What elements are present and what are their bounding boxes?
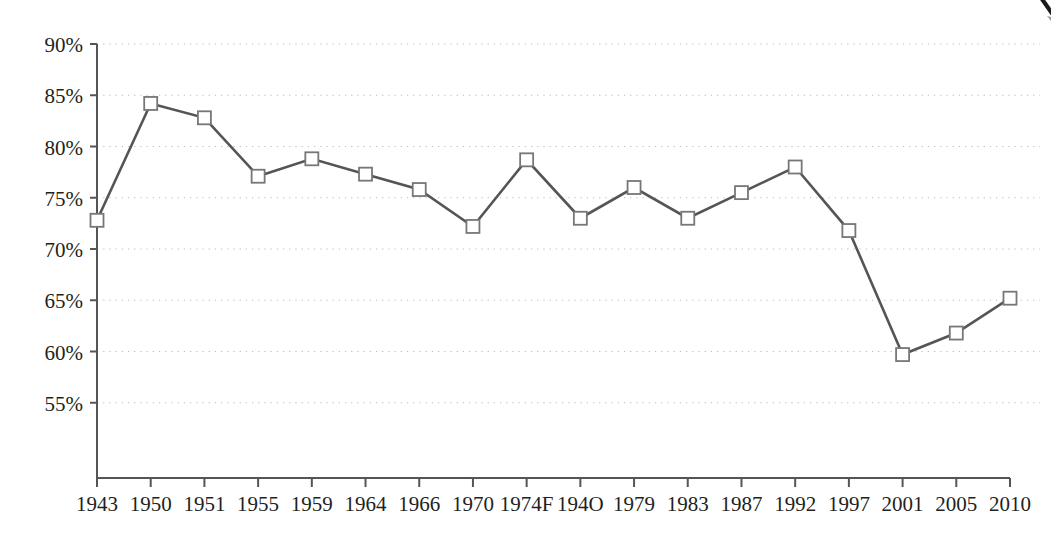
data-point-marker (735, 186, 748, 199)
data-point-marker (789, 161, 802, 174)
line-chart: 90%85%80%75%70%65%60%55% 194319501951195… (0, 0, 1051, 550)
data-point-marker (466, 220, 479, 233)
data-point-marker (305, 152, 318, 165)
x-tick-label: 1955 (237, 492, 279, 516)
series-line (97, 103, 1010, 354)
y-tick-label: 55% (45, 392, 84, 416)
data-point-marker (144, 97, 157, 110)
y-tick-label: 85% (45, 84, 84, 108)
x-tick-label: 2005 (935, 492, 977, 516)
x-tick-label: 194O (557, 492, 604, 516)
x-tick-labels: 194319501951195519591964196619701974F194… (76, 492, 1031, 516)
x-axis (97, 478, 1010, 487)
x-tick-label: 1987 (720, 492, 762, 516)
data-point-marker (413, 183, 426, 196)
data-point-marker (681, 212, 694, 225)
x-tick-label: 2001 (882, 492, 924, 516)
data-markers (91, 97, 1017, 361)
y-tick-label: 75% (45, 187, 84, 211)
x-tick-label: 1974F (500, 492, 554, 516)
x-tick-label: 1997 (828, 492, 870, 516)
x-tick-label: 1983 (667, 492, 709, 516)
x-tick-label: 1966 (398, 492, 440, 516)
data-point-marker (574, 212, 587, 225)
data-point-marker (842, 224, 855, 237)
x-tick-label: 1951 (183, 492, 225, 516)
data-point-marker (950, 327, 963, 340)
chart-container: 90%85%80%75%70%65%60%55% 194319501951195… (0, 0, 1051, 550)
data-point-marker (628, 181, 641, 194)
x-tick-label: 1970 (452, 492, 494, 516)
data-point-marker (520, 153, 533, 166)
y-tick-label: 80% (45, 136, 84, 160)
y-axis (90, 44, 97, 478)
data-point-marker (896, 348, 909, 361)
data-point-marker (91, 214, 104, 227)
y-tick-label: 90% (45, 33, 84, 57)
data-point-marker (198, 111, 211, 124)
data-line (97, 103, 1010, 354)
y-tick-label: 65% (45, 289, 84, 313)
x-tick-label: 1950 (130, 492, 172, 516)
x-tick-label: 1979 (613, 492, 655, 516)
x-tick-label: 1943 (76, 492, 118, 516)
data-point-marker (1004, 292, 1017, 305)
x-tick-label: 1959 (291, 492, 333, 516)
data-point-marker (359, 168, 372, 181)
y-tick-labels: 90%85%80%75%70%65%60%55% (45, 33, 84, 416)
x-tick-label: 1992 (774, 492, 816, 516)
x-tick-label: 1964 (345, 492, 388, 516)
x-tick-label: 2010 (989, 492, 1031, 516)
y-tick-label: 70% (45, 238, 84, 262)
y-tick-label: 60% (45, 341, 84, 365)
data-point-marker (252, 170, 265, 183)
